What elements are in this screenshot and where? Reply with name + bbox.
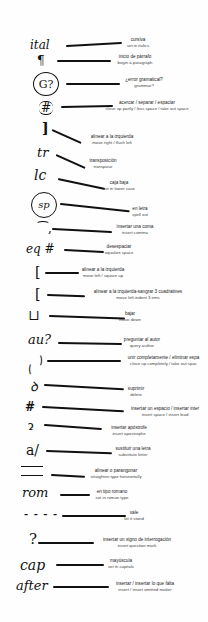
connector-line [53,586,109,588]
mark-description: insertar un espacio / insertar interinse… [122,406,208,418]
mark-row-insert-omitted: after insertar / insertar lo que faltain… [0,578,208,600]
mark-row-lower-case: lc caja bajaset in lower case [0,165,208,193]
mark-description: desespaciarequalize space [102,244,136,256]
insert-omitted-mark-icon: after [16,579,48,592]
roman-mark-icon: rom [22,486,48,499]
connector-line [66,42,122,47]
delete-mark-icon: ꝺ [30,380,38,393]
connector-line [44,424,102,430]
mark-description: caja bajaset in lower case [98,180,140,192]
mark-row-straighten: alinear o parangonarstraighten type hori… [0,462,208,484]
mark-row-roman: rom en tipo romanoset in roman type [0,484,208,506]
move-down-mark-icon: ⊔ [28,308,40,322]
mark-row-let-it-stand: - - - - valelet it stand [0,510,208,530]
mark-row-capitals: cap mayúsculaset in capitals [0,556,208,578]
mark-description: acercar / separar / espaciarclose up par… [95,100,199,112]
transpose-mark-icon: tr [37,146,48,159]
close-up-mark-icon: ⁀‿ [30,356,41,374]
connector-line [47,360,121,362]
mark-row-insert-comma: ⁀, insertar una comainsert comma [0,220,208,240]
mark-description: cursivaset in italics [118,37,158,49]
mark-description: inicio de párrafobegin a paragraph [110,54,160,66]
mark-row-equalize-space: eq # desespaciarequalize space [0,241,208,263]
mark-description: bajarmove down [118,311,142,323]
mark-row-move-left-indent: [ alinear a la izquierda-sangrar 3 cuadr… [0,286,208,306]
mark-row-spell-out: sp en letraspell out [0,192,208,222]
mark-row-flush-left: ] alinear a la izquierdamove right / flu… [0,120,208,144]
connector-line [58,342,122,345]
mark-description: valelet it stand [124,510,144,522]
connector-line [60,203,130,212]
connector-line [51,474,85,478]
connector-line [66,83,120,85]
comma-mark-icon: ⁀, [38,222,52,234]
mark-row-close-up-completely: ⁀‿ unir completamente / eliminar espaclo… [0,352,208,376]
mark-description: insertar apóstrofeinsert apostrophe [106,425,152,437]
apostrophe-mark-icon: ɂ [28,420,34,432]
mark-description: mayúsculaset in capitals [104,558,138,570]
connector-line [44,384,124,390]
connector-line [62,515,126,517]
mark-description: en letraspell out [128,206,152,218]
connector-line [38,542,94,544]
connector-line [56,564,104,566]
mark-row-substitute-letter: a/ sustituir una letrasubstitute letter [0,440,208,464]
mark-row-close-up-space: # acercar / separar / espaciarclose up p… [0,98,208,118]
lower-case-mark-icon: lc [34,168,46,182]
paragraph-mark-icon: ¶ [37,55,45,67]
equalize-space-mark-icon: eq # [26,243,55,255]
connector-line [49,315,125,320]
mark-row-insert-apostrophe: ɂ insertar apóstrofeinsert apostrophe [0,420,208,442]
mark-row-query-author: au? preguntar al autorquery author [0,330,208,352]
mark-description: suprimirdelete [124,386,148,398]
connector-line [64,249,104,253]
mark-row-grammar: G? ¿error gramatical?grammar? [0,72,208,96]
insert-space-mark-icon: # [25,401,35,413]
connector-line [42,406,124,412]
connector-line [60,494,90,496]
mark-description: sustituir una letrasubstitute letter [110,446,156,458]
proofreading-marks-sheet: ital cursivaset in italics ¶ inicio de p… [0,0,208,622]
mark-description: insertar / insertar lo que faltainsert /… [108,581,182,593]
connector-line [47,294,85,297]
connector-line [52,228,112,233]
question-mark-icon: ? [29,532,37,547]
mark-row-delete: ꝺ suprimirdelete [0,378,208,400]
stet-mark-icon: - - - - [24,509,58,519]
mark-description: alinear o parangonarstraighten type hori… [84,468,148,480]
mark-row-move-left: [ alinear a la izquierdamove left / squa… [0,264,208,284]
mark-description: unir completamente / eliminar espaclose … [119,355,208,367]
straighten-mark-icon [21,466,43,476]
capitals-mark-icon: cap [20,558,45,572]
space-mark-icon: # [39,101,53,115]
mark-row-insert-question-mark: ? insertar un signo de interrogacióninse… [0,530,208,554]
mark-description: ¿error gramatical?grammar? [118,77,170,89]
connector-line [45,272,79,274]
mark-row-move-down: ⊔ bajarmove down [0,308,208,328]
connector-line [57,60,111,62]
mark-description: en tipo romanoset in roman type [90,489,134,501]
mark-row-italics: ital cursivaset in italics [0,34,208,54]
mark-row-paragraph: ¶ inicio de párrafobegin a paragraph [0,52,208,70]
left-bracket-mark-icon: [ [35,287,40,301]
left-bracket-mark-icon: [ [35,265,40,279]
connector-line [52,129,82,144]
spell-out-mark-icon: sp [31,192,57,218]
mark-description: alinear a la izquierda-sangrar 3 cuadrat… [85,289,191,301]
mark-description: insertar una comainsert comma [112,224,158,236]
query-author-mark-icon: au? [28,333,51,346]
mark-description: preguntar al autorquery author [118,337,166,349]
substitute-letter-mark-icon: a/ [26,443,39,457]
italics-mark-icon: ital [30,39,50,51]
connector-line [46,450,112,454]
right-bracket-mark-icon: ] [42,121,49,135]
grammar-query-mark-icon: G? [33,72,59,96]
mark-description: insertar un signo de interrogacióninsert… [94,537,180,549]
mark-description: alinear a la izquierdamove left / square… [80,267,126,279]
